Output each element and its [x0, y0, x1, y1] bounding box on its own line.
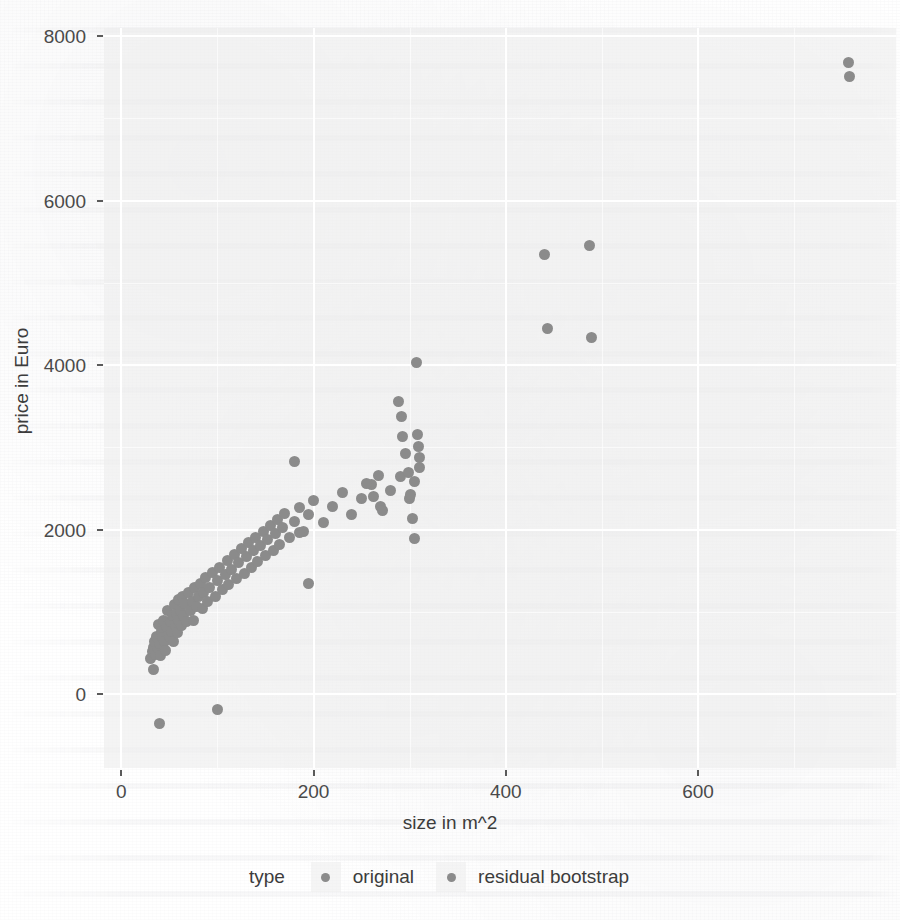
scatter-point	[160, 645, 171, 656]
gridline	[697, 28, 699, 768]
y-axis-tick-mark	[97, 529, 103, 531]
y-axis-tick-mark	[97, 693, 103, 695]
gridline	[104, 118, 896, 119]
scatter-point	[337, 487, 348, 498]
legend-label-original: original	[353, 866, 414, 888]
y-axis-tick-mark	[97, 364, 103, 366]
y-axis-tick-mark	[97, 35, 103, 37]
scatter-point	[414, 452, 425, 463]
scatter-point	[409, 533, 420, 544]
gridline	[104, 200, 896, 202]
scatter-point	[303, 578, 314, 589]
x-axis-tick-label: 600	[653, 782, 743, 801]
scatter-point	[188, 615, 199, 626]
y-axis-tick-mark	[97, 200, 103, 202]
scatter-point	[385, 485, 396, 496]
y-axis-tick-label: 8000	[14, 27, 86, 46]
gridline	[794, 28, 795, 768]
legend-entry-original[interactable]: original	[311, 862, 414, 892]
scatter-point	[405, 489, 416, 500]
scatter-point	[413, 441, 424, 452]
gridline	[104, 364, 896, 366]
x-axis-tick-mark	[313, 770, 315, 776]
scatter-point	[356, 493, 367, 504]
legend-entry-residual-bootstrap[interactable]: residual bootstrap	[436, 862, 629, 892]
scatter-point	[294, 527, 305, 538]
scatter-point	[393, 396, 404, 407]
y-axis-title: price in Euro	[11, 231, 33, 531]
scatter-point	[542, 323, 553, 334]
x-axis-tick-label: 0	[76, 782, 166, 801]
legend-title: type	[249, 866, 285, 888]
legend: type original residual bootstrap	[0, 862, 900, 892]
gridline	[104, 693, 896, 695]
scatter-point	[289, 516, 300, 527]
x-axis-tick-mark	[120, 770, 122, 776]
gridline	[505, 28, 507, 768]
circle-icon	[447, 873, 456, 882]
x-axis-tick-label: 200	[269, 782, 359, 801]
gridline	[313, 28, 315, 768]
scatter-point	[586, 332, 597, 343]
scatter-point	[407, 513, 418, 524]
x-axis-tick-label: 400	[461, 782, 551, 801]
gridline	[104, 776, 896, 777]
x-axis-tick-mark	[697, 770, 699, 776]
scatter-point	[289, 456, 300, 467]
scatter-point	[411, 357, 422, 368]
gridline	[602, 28, 603, 768]
gridline	[104, 529, 896, 531]
scatter-point	[396, 411, 407, 422]
gridline	[410, 28, 411, 768]
legend-key-original	[311, 862, 341, 892]
y-axis-tick-label: 6000	[14, 192, 86, 211]
gridline	[120, 28, 122, 768]
scatter-point	[368, 491, 379, 502]
gridline	[217, 28, 218, 768]
y-axis-tick-label: 0	[14, 685, 86, 704]
scatter-point	[403, 467, 414, 478]
gridline	[104, 35, 896, 37]
scatter-point	[212, 704, 223, 715]
gridline	[104, 283, 896, 284]
scatter-point	[361, 478, 372, 489]
x-axis-title: size in m^2	[0, 812, 900, 834]
gridline	[104, 447, 896, 448]
gridline	[104, 612, 896, 613]
scatter-point	[400, 448, 411, 459]
legend-key-residual-bootstrap	[436, 862, 466, 892]
legend-label-residual-bootstrap: residual bootstrap	[478, 866, 629, 888]
plot-panel	[104, 28, 896, 768]
circle-icon	[321, 873, 330, 882]
x-axis-tick-mark	[505, 770, 507, 776]
scatter-point	[412, 429, 423, 440]
